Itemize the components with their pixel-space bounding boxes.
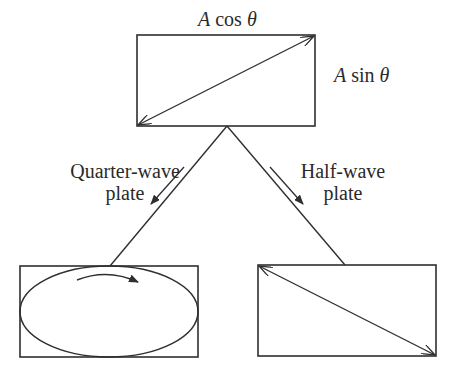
elliptical-polarization-ellipse (20, 266, 198, 357)
amplitude-symbol: A (198, 8, 210, 30)
rotation-arrow-icon (77, 274, 138, 282)
theta-symbol: θ (247, 8, 257, 30)
label-a-sin-theta: A sin θ (334, 64, 389, 86)
quarter-wave-plate-label: Quarter-wave plate (60, 160, 190, 204)
linear-polarization-vector (138, 36, 314, 125)
quarter-wave-label-line2: plate (60, 182, 190, 204)
polarization-diagram: A cos θ A sin θ Quarter-wave plate Half-… (0, 0, 460, 380)
amplitude-symbol: A (334, 64, 346, 86)
label-a-cos-theta: A cos θ (198, 8, 257, 30)
cos-function: cos (215, 8, 242, 30)
half-wave-plate-label: Half-wave plate (288, 160, 398, 204)
sin-function: sin (351, 64, 374, 86)
rotated-linear-polarization-vector (259, 266, 435, 355)
half-wave-label-line2: plate (288, 182, 398, 204)
quarter-wave-label-line1: Quarter-wave (60, 160, 190, 182)
theta-symbol: θ (380, 64, 390, 86)
half-wave-label-line1: Half-wave (288, 160, 398, 182)
